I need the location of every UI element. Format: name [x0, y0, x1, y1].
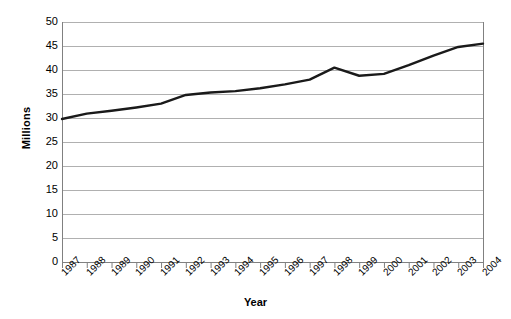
series-line-millions — [62, 44, 483, 119]
data-line-series — [62, 44, 483, 119]
x-axis-title: Year — [0, 296, 511, 308]
line-chart: Millions 05101520253035404550 1987198819… — [0, 0, 511, 319]
gridlines — [62, 23, 483, 263]
